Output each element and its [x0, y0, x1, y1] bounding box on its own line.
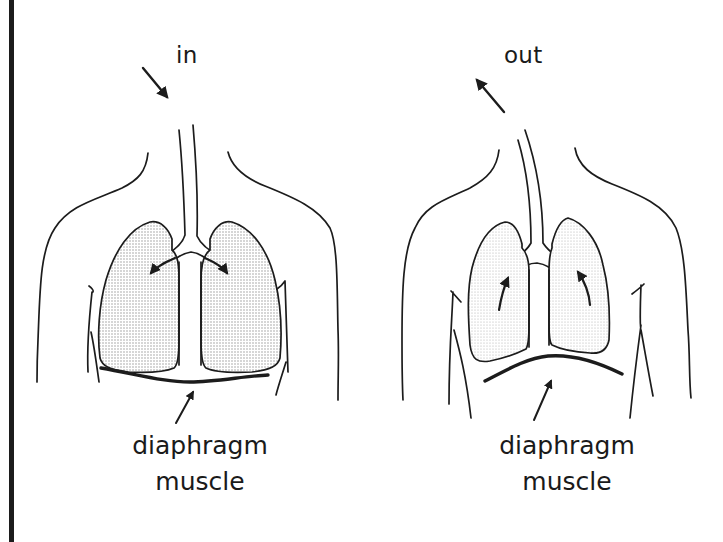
diaphragm-pointer-right [534, 381, 551, 420]
diaphragm-caption-right: diaphragm muscle [467, 428, 667, 500]
left-lung [468, 222, 529, 362]
exhale-panel [402, 80, 691, 420]
breathing-diagram: in out diaphragm muscle diaphragm muscle [0, 0, 723, 542]
caption-line-1: diaphragm [467, 428, 667, 464]
inhale-panel [37, 68, 338, 423]
inhale-label: in [176, 44, 198, 67]
exhale-label: out [504, 44, 543, 67]
right-lung [201, 222, 281, 373]
arrow-up-left-icon [477, 80, 504, 112]
caption-line-2: muscle [100, 464, 300, 500]
caption-line-2: muscle [467, 464, 667, 500]
right-lung [549, 218, 609, 353]
caption-line-1: diaphragm [100, 428, 300, 464]
diaphragm-exhale [485, 356, 622, 381]
left-lung [99, 222, 179, 373]
diaphragm-caption-left: diaphragm muscle [100, 428, 300, 500]
diaphragm-pointer-left [176, 392, 193, 423]
arrow-down-right-icon [143, 68, 167, 97]
